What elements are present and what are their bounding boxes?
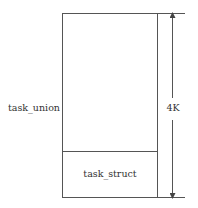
task-union-label: task_union bbox=[8, 103, 60, 113]
memory-layout-diagram: task_union task_struct 4K bbox=[0, 0, 198, 208]
task-struct-label: task_struct bbox=[62, 169, 158, 179]
size-dimension-label: 4K bbox=[163, 101, 183, 115]
